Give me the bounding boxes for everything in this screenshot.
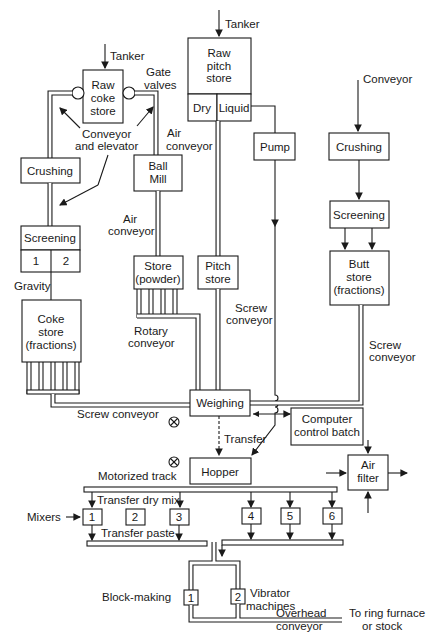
diagram-label: Butt bbox=[349, 258, 370, 270]
mixers-section: Transfer dry mix Mixers 1 2 3 4 5 6 Tran… bbox=[27, 487, 343, 556]
diagram-label: Mixers bbox=[27, 511, 61, 523]
diagram-label: 4 bbox=[248, 510, 255, 522]
diagram-label: conveyor bbox=[276, 620, 323, 632]
diagram-label: conveyor bbox=[108, 225, 155, 237]
diagram-label: store bbox=[346, 271, 372, 283]
diagram-label: Overhead bbox=[276, 607, 327, 619]
diagram-label: Computer bbox=[302, 413, 353, 425]
diagram-label: control batch bbox=[294, 426, 360, 438]
diagram-label: 1 bbox=[188, 592, 194, 604]
diagram-label: Transfer dry mix bbox=[97, 494, 180, 506]
diagram-label: Screw bbox=[235, 302, 268, 314]
diagram-label: Ball bbox=[148, 160, 167, 172]
diagram-label: Air bbox=[361, 459, 375, 471]
diagram-label: 2 bbox=[235, 591, 241, 603]
process-flow-diagram: Tanker Raw coke store Gate valves Convey… bbox=[0, 0, 431, 644]
coke-store-outlets bbox=[27, 362, 79, 394]
diagram-label: filter bbox=[357, 472, 379, 484]
diagram-label: conveyor bbox=[369, 351, 416, 363]
gate-valve-right bbox=[123, 87, 135, 99]
paste-track-right bbox=[222, 540, 343, 545]
paste-track-left bbox=[87, 541, 207, 546]
diagram-label: (fractions) bbox=[25, 339, 76, 351]
diagram-label: 6 bbox=[329, 510, 335, 522]
diagram-label: Mill bbox=[149, 173, 166, 185]
diagram-label: Conveyor bbox=[82, 128, 131, 140]
diagram-label: Coke bbox=[38, 313, 65, 325]
diagram-label: Rotary bbox=[134, 325, 168, 337]
diagram-label: Tanker bbox=[225, 18, 260, 30]
pitch-section: Tanker Raw pitch store Dry Liquid Pump P… bbox=[188, 10, 295, 455]
diagram-label: Pitch bbox=[205, 260, 231, 272]
block-making-section: 1 2 Block-making Vibrator machines Overh… bbox=[102, 542, 425, 632]
diagram-label: Tanker bbox=[110, 50, 145, 62]
diagram-label: 2 bbox=[132, 511, 138, 523]
diagram-label: store bbox=[205, 273, 231, 285]
diagram-label: 2 bbox=[63, 255, 69, 267]
diagram-label: store bbox=[206, 72, 232, 84]
diagram-label: or stock bbox=[362, 620, 403, 632]
diagram-label: 1 bbox=[89, 511, 95, 523]
diagram-label: Crushing bbox=[336, 141, 382, 153]
diagram-label: Screw bbox=[369, 339, 402, 351]
valve-icon-1 bbox=[169, 417, 179, 427]
diagram-label: Dry bbox=[193, 102, 211, 114]
motorized-track bbox=[84, 487, 337, 492]
diagram-label: 5 bbox=[287, 510, 293, 522]
diagram-label: Screening bbox=[333, 209, 385, 221]
raw-coke-section: Tanker Raw coke store Gate valves Convey… bbox=[14, 44, 213, 420]
diagram-label: 3 bbox=[176, 511, 182, 523]
diagram-label: Conveyor bbox=[363, 73, 412, 85]
diagram-label: Transfer paste bbox=[101, 527, 175, 539]
diagram-label: conveyor bbox=[166, 140, 213, 152]
diagram-label: Motorized track bbox=[98, 470, 177, 482]
diagram-label: Store bbox=[144, 260, 172, 272]
diagram-label: Gate bbox=[146, 66, 171, 78]
diagram-label: Raw bbox=[91, 79, 115, 91]
valve-icon-2 bbox=[169, 457, 179, 467]
diagram-label: (fractions) bbox=[333, 284, 384, 296]
diagram-label: Weighing bbox=[196, 397, 244, 409]
diagram-canvas: Tanker Raw coke store Gate valves Convey… bbox=[0, 0, 431, 644]
diagram-label: Air bbox=[167, 127, 181, 139]
diagram-label: valves bbox=[144, 79, 177, 91]
diagram-label: Screening bbox=[24, 232, 76, 244]
diagram-label: (powder) bbox=[135, 273, 181, 285]
diagram-label: conveyor bbox=[226, 314, 273, 326]
diagram-label: conveyor bbox=[128, 337, 175, 349]
diagram-label: Gravity bbox=[14, 280, 51, 292]
diagram-label: Vibrator bbox=[250, 587, 290, 599]
diagram-label: Pump bbox=[260, 141, 290, 153]
diagram-label: store bbox=[90, 105, 116, 117]
diagram-label: and elevator bbox=[75, 140, 138, 152]
diagram-label: 1 bbox=[33, 255, 39, 267]
diagram-label: store bbox=[38, 326, 64, 338]
diagram-label: Crushing bbox=[27, 165, 73, 177]
diagram-label: Air bbox=[123, 213, 137, 225]
diagram-label: coke bbox=[91, 92, 115, 104]
gate-valve-left bbox=[72, 87, 84, 99]
diagram-label: Hopper bbox=[201, 466, 239, 478]
diagram-label: Block-making bbox=[102, 591, 171, 603]
diagram-label: Liquid bbox=[219, 102, 250, 114]
diagram-label: Screw conveyor bbox=[77, 408, 159, 420]
diagram-label: Transfer bbox=[224, 433, 267, 445]
diagram-label: Raw bbox=[207, 47, 231, 59]
diagram-label: To ring furnace bbox=[349, 607, 425, 619]
diagram-label: pitch bbox=[207, 60, 231, 72]
